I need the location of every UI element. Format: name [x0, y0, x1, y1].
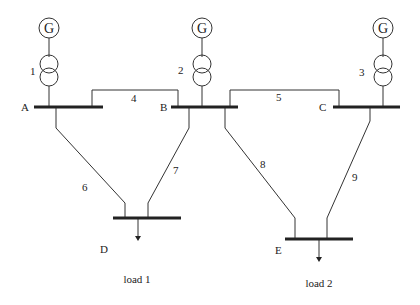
bus-D-label: D	[100, 243, 108, 255]
line-7-label: 7	[173, 164, 179, 176]
generator-3-label: G	[378, 21, 388, 36]
transformer-1-label: 1	[30, 65, 36, 77]
line-9-label: 9	[352, 171, 358, 183]
power-system-diagram: G G G 1 2 3 A B C D E 4 5 6 7 8 9 load 1…	[0, 0, 420, 305]
line-6-label: 6	[82, 181, 88, 193]
bus-B-label: B	[160, 101, 167, 113]
line-4-label: 4	[131, 92, 137, 104]
transformer-2-label: 2	[178, 64, 184, 76]
line-5-label: 5	[276, 91, 282, 103]
line-7	[148, 107, 189, 218]
generator-1-label: G	[44, 21, 54, 36]
bus-C-label: C	[319, 101, 326, 113]
bus-A-label: A	[21, 101, 29, 113]
load-2-label: load 2	[305, 277, 332, 289]
line-8-label: 8	[260, 158, 266, 170]
line-6	[56, 107, 125, 218]
load-1-label: load 1	[123, 273, 150, 285]
line-9	[327, 107, 370, 239]
line-8	[225, 107, 295, 239]
bus-E-label: E	[275, 244, 282, 256]
generator-2-label: G	[197, 21, 207, 36]
transformer-3-label: 3	[359, 66, 365, 78]
